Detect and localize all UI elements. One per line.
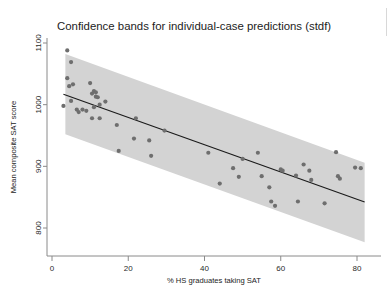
data-point [80,108,84,112]
data-point [115,123,119,127]
data-point [307,169,311,173]
data-point [61,104,65,108]
data-point [134,116,138,120]
x-tick-label: 0 [50,264,55,273]
data-point [231,166,235,170]
data-point [334,150,338,154]
chart-figure: Confidence bands for individual-case pre… [0,0,389,299]
data-point [69,99,73,103]
data-point [237,175,241,179]
data-point [206,151,210,155]
x-tick-label: 40 [200,264,209,273]
data-point [103,99,107,103]
data-point [162,128,166,132]
data-point [149,154,153,158]
x-tick-label: 60 [276,264,285,273]
data-point [90,116,94,120]
data-point [98,103,102,107]
y-tick-label: 1000 [34,95,43,113]
data-point [71,82,75,86]
x-tick-label: 20 [124,264,133,273]
data-point [69,60,73,64]
right-edge-artifact [386,8,387,36]
data-point [294,173,298,177]
data-point [353,165,357,169]
data-point [296,199,300,203]
x-tick-label: 80 [353,264,362,273]
data-point [96,95,100,99]
data-point [67,84,71,88]
y-axis-label: Mean composite SAT score [9,101,18,194]
y-tick-label: 900 [34,159,43,173]
data-point [77,110,81,114]
data-point [359,166,363,170]
data-point [302,162,306,166]
y-tick-label: 800 [34,221,43,235]
data-point [309,178,313,182]
data-point [88,81,92,85]
chart-svg: Confidence bands for individual-case pre… [0,0,389,299]
data-point [281,169,285,173]
data-point [98,116,102,120]
chart-title: Confidence bands for individual-case pre… [57,20,331,32]
data-point [338,177,342,181]
data-point [92,105,96,109]
data-point [65,76,69,80]
data-point [273,204,277,208]
data-point [147,138,151,142]
data-point [94,90,98,94]
data-point [269,199,273,203]
data-point [218,182,222,186]
data-point [117,149,121,153]
data-point [132,136,136,140]
x-axis-label: % HS graduates taking SAT [167,276,261,285]
data-point [241,157,245,161]
y-tick-label: 1100 [34,34,43,52]
data-point [256,151,260,155]
data-point [267,185,271,189]
data-point [65,48,69,52]
data-point [260,174,264,178]
data-point [322,201,326,205]
data-point [84,109,88,113]
